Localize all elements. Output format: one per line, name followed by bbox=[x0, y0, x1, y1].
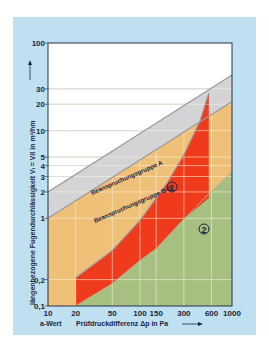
region-1-label: 1 bbox=[169, 183, 174, 193]
x-tick-label: 100 bbox=[133, 309, 147, 318]
x-tick-label: 150 bbox=[150, 309, 164, 318]
region-2-label: 2 bbox=[201, 225, 206, 235]
y-tick-label: 10 bbox=[36, 127, 45, 136]
x-tick-label: 50 bbox=[108, 309, 117, 318]
a-wert-label: a-Wert bbox=[40, 320, 62, 327]
x-tick-label: 300 bbox=[177, 309, 191, 318]
y-tick-label: 100 bbox=[32, 39, 46, 48]
y-axis-label: längenbezogene Fugendurchlässigkeit Vₗ =… bbox=[29, 121, 37, 305]
x-tick-label: 20 bbox=[71, 309, 80, 318]
x-tick-label: 600 bbox=[205, 309, 219, 318]
y-tick-label: 4 bbox=[41, 162, 46, 171]
x-tick-label: 10 bbox=[44, 309, 53, 318]
y-tick-label: 3 bbox=[41, 173, 46, 182]
y-tick-label: 2 bbox=[41, 188, 46, 197]
x-tick-label: 1000 bbox=[223, 309, 241, 318]
y-tick-label: 30 bbox=[36, 85, 45, 94]
air-permeability-chart: 0,10,212345102030100 1020501001503006001… bbox=[0, 0, 269, 344]
y-tick-label: 20 bbox=[36, 100, 45, 109]
y-tick-label: 1 bbox=[41, 214, 46, 223]
x-axis-label: Prüfdruckdifferenz Δp in Pa bbox=[76, 320, 168, 328]
x-axis-arrow-icon bbox=[182, 322, 203, 326]
y-tick-label: 5 bbox=[41, 153, 46, 162]
x-axis-ticks: 1020501001503006001000 bbox=[44, 309, 242, 318]
y-axis-arrow-icon bbox=[28, 60, 32, 80]
